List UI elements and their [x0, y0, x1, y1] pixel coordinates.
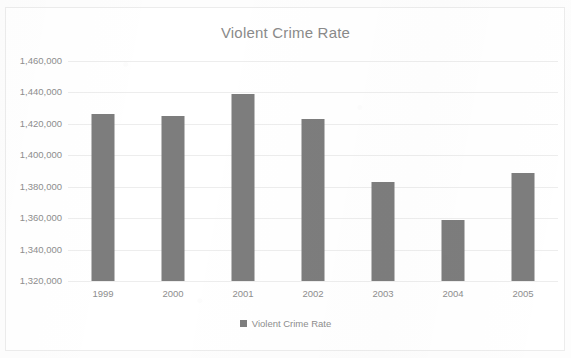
- x-axis-tick-label: 2004: [418, 288, 488, 299]
- y-axis-tick-label: 1,460,000: [2, 55, 62, 66]
- plot-area: [68, 61, 558, 281]
- x-axis-labels: 1999200020012002200320042005: [68, 288, 558, 302]
- bar-slot: [138, 61, 208, 281]
- bar[interactable]: [92, 114, 115, 281]
- bar-slot: [68, 61, 138, 281]
- x-axis-tick-label: 2000: [138, 288, 208, 299]
- chart-page: Violent Crime Rate 1,460,0001,440,0001,4…: [0, 0, 571, 358]
- bar-slot: [348, 61, 418, 281]
- bar[interactable]: [372, 182, 395, 281]
- bar[interactable]: [442, 220, 465, 281]
- y-axis-tick-label: 1,420,000: [2, 118, 62, 129]
- y-axis-tick-label: 1,440,000: [2, 86, 62, 97]
- y-axis-labels: 1,460,0001,440,0001,420,0001,400,0001,38…: [0, 61, 62, 281]
- y-axis-tick-label: 1,380,000: [2, 181, 62, 192]
- bar-slot: [208, 61, 278, 281]
- bar[interactable]: [512, 173, 535, 281]
- x-axis-tick-label: 1999: [68, 288, 138, 299]
- x-axis-tick-label: 2001: [208, 288, 278, 299]
- legend-label: Violent Crime Rate: [252, 318, 332, 329]
- legend-square-marker-icon: [240, 320, 247, 327]
- bar[interactable]: [232, 94, 255, 281]
- x-axis-tick-label: 2002: [278, 288, 348, 299]
- x-axis-tick-label: 2003: [348, 288, 418, 299]
- bar[interactable]: [162, 116, 185, 281]
- bar-slot: [278, 61, 348, 281]
- gridline: [68, 281, 558, 282]
- y-axis-tick-label: 1,320,000: [2, 275, 62, 286]
- bar-slot: [418, 61, 488, 281]
- y-axis-tick-label: 1,400,000: [2, 149, 62, 160]
- chart-legend: Violent Crime Rate: [0, 318, 571, 329]
- x-axis-tick-label: 2005: [488, 288, 558, 299]
- bar-slot: [488, 61, 558, 281]
- y-axis-tick-label: 1,340,000: [2, 244, 62, 255]
- y-axis-tick-label: 1,360,000: [2, 212, 62, 223]
- chart-title: Violent Crime Rate: [0, 24, 571, 41]
- bar[interactable]: [302, 119, 325, 281]
